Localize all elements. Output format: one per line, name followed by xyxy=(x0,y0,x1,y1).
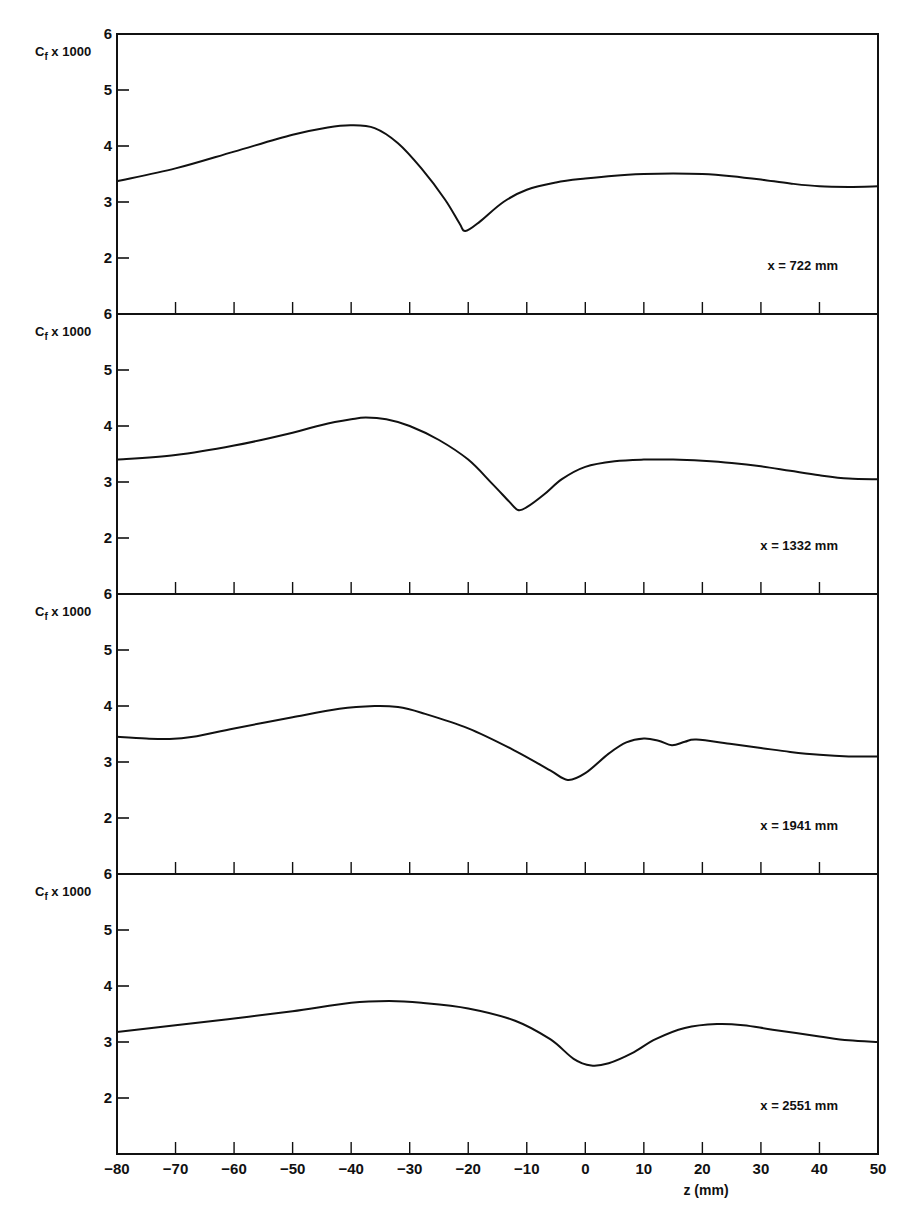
y-tick-label: 3 xyxy=(104,753,112,770)
y-tick-label: 5 xyxy=(104,81,112,98)
x-tick-label: 0 xyxy=(581,1160,589,1177)
panel-4: 23456Cf x 1000x = 2551 mm xyxy=(35,865,878,1113)
y-tick-label: 6 xyxy=(104,25,112,42)
y-axis-label: Cf x 1000 xyxy=(35,324,91,342)
panel-1: 23456Cf x 1000x = 722 mm xyxy=(35,25,878,314)
y-tick-label: 4 xyxy=(104,417,113,434)
x-tick-label: −60 xyxy=(221,1160,246,1177)
y-tick-label: 3 xyxy=(104,473,112,490)
panel-annotation: x = 1941 mm xyxy=(760,818,838,833)
y-tick-label: 5 xyxy=(104,361,112,378)
y-tick-label: 3 xyxy=(104,193,112,210)
y-tick-label: 5 xyxy=(104,641,112,658)
skin-friction-figure: 23456Cf x 1000x = 722 mm23456Cf x 1000x … xyxy=(0,0,909,1219)
x-tick-label: 30 xyxy=(753,1160,770,1177)
x-tick-label: −80 xyxy=(104,1160,129,1177)
panel-annotation: x = 2551 mm xyxy=(760,1098,838,1113)
cf-curve xyxy=(117,418,878,511)
x-tick-label: −20 xyxy=(456,1160,481,1177)
x-tick-label: −70 xyxy=(163,1160,188,1177)
y-tick-label: 2 xyxy=(104,809,112,826)
x-tick-label: −40 xyxy=(338,1160,363,1177)
y-tick-label: 2 xyxy=(104,249,112,266)
y-tick-label: 2 xyxy=(104,1089,112,1106)
figure-caption-cropped xyxy=(0,1200,909,1219)
x-tick-label: −50 xyxy=(280,1160,305,1177)
x-tick-label: 10 xyxy=(636,1160,653,1177)
cf-curve xyxy=(117,1001,878,1066)
cf-curve xyxy=(117,125,878,231)
y-tick-label: 2 xyxy=(104,529,112,546)
y-axis-label: Cf x 1000 xyxy=(35,604,91,622)
y-tick-label: 5 xyxy=(104,921,112,938)
panel-annotation: x = 1332 mm xyxy=(760,538,838,553)
y-tick-label: 6 xyxy=(104,865,112,882)
x-axis: −80−70−60−50−40−30−20−1001020304050 xyxy=(104,1142,886,1177)
y-tick-label: 6 xyxy=(104,585,112,602)
x-tick-label: −30 xyxy=(397,1160,422,1177)
y-tick-label: 6 xyxy=(104,305,112,322)
panel-3: 23456Cf x 1000x = 1941 mm xyxy=(35,585,878,874)
y-tick-label: 4 xyxy=(104,977,113,994)
y-axis-label: Cf x 1000 xyxy=(35,884,91,902)
x-axis-label: z (mm) xyxy=(683,1182,728,1198)
cf-curve xyxy=(117,706,878,780)
x-tick-label: 40 xyxy=(811,1160,828,1177)
x-tick-label: −10 xyxy=(514,1160,539,1177)
y-axis-label: Cf x 1000 xyxy=(35,44,91,62)
x-tick-label: 20 xyxy=(694,1160,711,1177)
x-tick-label: 50 xyxy=(870,1160,887,1177)
panels-container: 23456Cf x 1000x = 722 mm23456Cf x 1000x … xyxy=(35,25,878,1154)
y-tick-label: 4 xyxy=(104,697,113,714)
panel-2: 23456Cf x 1000x = 1332 mm xyxy=(35,305,878,594)
panel-annotation: x = 722 mm xyxy=(768,258,838,273)
y-tick-label: 3 xyxy=(104,1033,112,1050)
y-tick-label: 4 xyxy=(104,137,113,154)
